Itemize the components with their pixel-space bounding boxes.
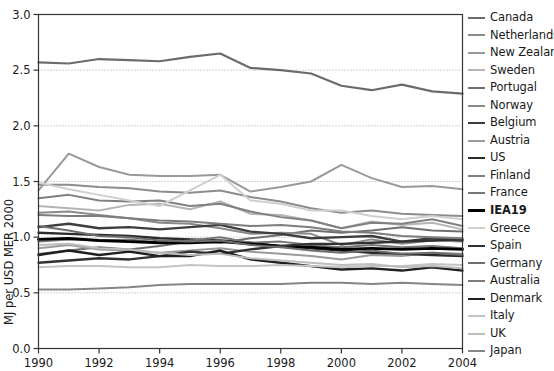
- legend-line-swatch-icon: [468, 17, 485, 19]
- legend-item-label: Canada: [490, 9, 533, 27]
- legend-item[interactable]: Finland: [468, 167, 554, 185]
- legend-item[interactable]: IEA19: [468, 202, 554, 220]
- legend-line-swatch-icon: [468, 52, 485, 54]
- legend-line-swatch-icon: [468, 245, 485, 247]
- legend-item[interactable]: Netherlands: [468, 27, 554, 45]
- legend-line-swatch-icon: [468, 333, 485, 335]
- y-axis-title: MJ per USD MER 2000: [2, 199, 16, 325]
- legend-item-label: Austria: [490, 132, 530, 150]
- legend-line-swatch-icon: [468, 350, 485, 352]
- legend-line-swatch-icon: [468, 175, 485, 177]
- legend-item[interactable]: Italy: [468, 307, 554, 325]
- legend-item-label: Spain: [490, 237, 522, 255]
- legend-item-label: Sweden: [490, 62, 535, 80]
- legend-item[interactable]: France: [468, 184, 554, 202]
- legend-item[interactable]: Portugal: [468, 79, 554, 97]
- legend-item-label: Finland: [490, 167, 530, 185]
- legend-item[interactable]: Norway: [468, 97, 554, 115]
- legend-line-swatch-icon: [468, 315, 485, 317]
- legend-item-label: New Zealand: [490, 44, 554, 62]
- y-tick-label: 0.0: [12, 342, 30, 356]
- y-axis-title-text: MJ per USD MER 2000: [2, 199, 16, 325]
- legend-line-swatch-icon: [468, 122, 485, 124]
- x-tick-label: 2000: [327, 356, 356, 370]
- legend-line-swatch-icon: [468, 227, 485, 229]
- legend-item[interactable]: Sweden: [468, 62, 554, 80]
- legend-item[interactable]: Germany: [468, 255, 554, 273]
- x-tick-label: 1990: [24, 356, 53, 370]
- legend-item[interactable]: Belgium: [468, 114, 554, 132]
- legend-item[interactable]: New Zealand: [468, 44, 554, 62]
- legend-line-swatch-icon: [468, 34, 485, 36]
- legend-item-label: Australia: [490, 272, 540, 290]
- legend-line-swatch-icon: [468, 280, 485, 282]
- legend-item-label: Belgium: [490, 114, 536, 132]
- legend-item[interactable]: Denmark: [468, 290, 554, 308]
- legend-item[interactable]: Spain: [468, 237, 554, 255]
- y-tick-label: 2.0: [12, 119, 30, 133]
- legend-item-label: Denmark: [490, 290, 542, 308]
- legend-item-label: Netherlands: [490, 27, 554, 45]
- legend-item-label: US: [490, 149, 506, 167]
- legend-line-swatch-icon: [468, 140, 485, 142]
- legend-line-swatch-icon: [468, 209, 485, 212]
- legend-item-label: Japan: [490, 342, 522, 360]
- legend-line-swatch-icon: [468, 87, 485, 89]
- chart-legend: CanadaNetherlandsNew ZealandSwedenPortug…: [468, 9, 554, 364]
- legend-item-label: IEA19: [490, 202, 527, 220]
- x-tick-label: 1996: [206, 356, 235, 370]
- legend-line-swatch-icon: [468, 262, 485, 264]
- legend-item[interactable]: UK: [468, 325, 554, 343]
- x-tick-label: 1992: [84, 356, 113, 370]
- legend-item-label: France: [490, 184, 528, 202]
- legend-line-swatch-icon: [468, 105, 485, 107]
- legend-line-swatch-icon: [468, 192, 485, 194]
- legend-item-label: Italy: [490, 307, 514, 325]
- x-tick-label: 1998: [266, 356, 295, 370]
- legend-item[interactable]: Japan: [468, 342, 554, 360]
- legend-item[interactable]: US: [468, 149, 554, 167]
- chart-screenshot: 0.00.51.01.52.02.53.0 199019921994199619…: [0, 0, 554, 371]
- y-tick-label: 3.0: [12, 8, 30, 22]
- legend-item-label: Portugal: [490, 79, 537, 97]
- legend-line-swatch-icon: [468, 298, 485, 300]
- x-tick-label: 1994: [145, 356, 174, 370]
- legend-item-label: Greece: [490, 220, 530, 238]
- legend-item-label: Norway: [490, 97, 533, 115]
- legend-item-label: UK: [490, 325, 506, 343]
- legend-item[interactable]: Canada: [468, 9, 554, 27]
- y-tick-label: 1.5: [12, 175, 30, 189]
- legend-item-label: Germany: [490, 255, 542, 273]
- legend-line-swatch-icon: [468, 69, 485, 71]
- legend-item[interactable]: Austria: [468, 132, 554, 150]
- legend-item[interactable]: Greece: [468, 220, 554, 238]
- legend-item[interactable]: Australia: [468, 272, 554, 290]
- y-tick-label: 2.5: [12, 63, 30, 77]
- x-tick-label: 2002: [387, 356, 416, 370]
- legend-line-swatch-icon: [468, 157, 485, 159]
